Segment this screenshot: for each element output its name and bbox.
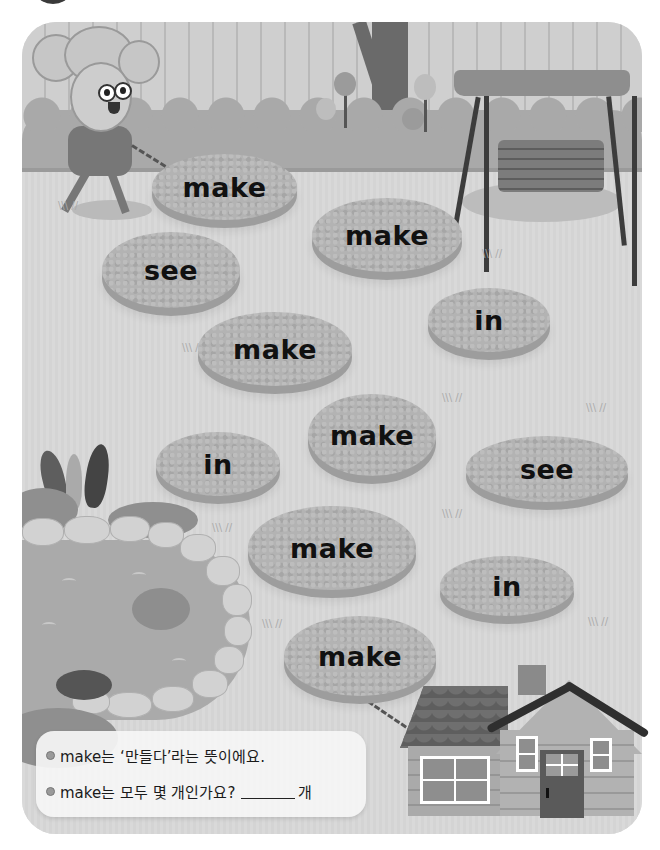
stepping-stone: in xyxy=(428,288,550,352)
grass-tuft: \\\ // xyxy=(482,248,502,259)
kid-eye xyxy=(114,82,132,100)
stepping-stone: in xyxy=(156,432,280,496)
stepping-stone: make xyxy=(152,154,297,220)
kid-body xyxy=(68,126,132,176)
lily-pad-flower xyxy=(56,670,112,700)
page-corner-mark xyxy=(38,0,68,4)
kid-mouth xyxy=(108,102,120,114)
house-window xyxy=(516,736,538,772)
swing-leg xyxy=(632,96,637,286)
grass-tuft: \\\ // xyxy=(588,616,608,627)
question-text: make는 모두 몇 개인가요? xyxy=(60,781,235,802)
kid-shadow xyxy=(72,200,152,220)
pond-rim-stone xyxy=(214,646,244,674)
stone-word: make xyxy=(330,420,414,451)
bullet-dot-icon xyxy=(46,751,55,760)
bullet-dot-icon xyxy=(46,787,55,796)
stone-word: see xyxy=(144,255,198,286)
grass-tuft: \\\ // xyxy=(212,522,232,533)
stepping-stone: make xyxy=(248,506,416,590)
grass-tuft: \\\ // xyxy=(442,508,462,519)
door-handle xyxy=(546,788,549,798)
water-wave xyxy=(172,658,186,664)
pond-rim-stone xyxy=(206,556,240,586)
stepping-stone: make xyxy=(308,394,436,476)
instruction-line-question: make는 모두 몇 개인가요? 개 xyxy=(46,781,312,802)
grass-tuft: \\\ // xyxy=(58,200,78,211)
grass-tuft: \\\ // xyxy=(442,392,462,403)
door-window xyxy=(546,754,578,776)
water-wave xyxy=(62,578,76,584)
flower-stem xyxy=(344,92,347,128)
stepping-stone: make xyxy=(312,198,462,272)
stone-word: make xyxy=(233,334,317,365)
swing-seat xyxy=(498,140,604,192)
swing-canopy xyxy=(454,70,630,96)
water-wave xyxy=(132,572,146,578)
instruction-line-meaning: make는 ‘만들다’라는 뜻이에요. xyxy=(46,745,265,766)
pond-rim-stone xyxy=(180,534,216,562)
stone-word: in xyxy=(203,449,232,480)
stepping-stone: make xyxy=(284,616,436,696)
pond-rim-stone xyxy=(22,518,64,546)
swing-leg xyxy=(484,96,489,272)
lily-pad xyxy=(132,588,190,630)
flower-icon xyxy=(402,108,424,130)
grass-tuft: \\\ // xyxy=(262,618,282,629)
stone-word: in xyxy=(474,305,503,336)
stone-word: make xyxy=(290,533,374,564)
pond-rim-stone xyxy=(106,692,152,718)
house-window xyxy=(420,756,490,804)
flower-icon xyxy=(316,98,336,120)
stone-word: make xyxy=(183,172,267,203)
instruction-text: make는 ‘만들다’라는 뜻이에요. xyxy=(60,745,265,766)
pond-rim-stone xyxy=(222,584,252,616)
flower-stem xyxy=(424,96,427,132)
pond-rim-stone xyxy=(192,670,228,698)
stone-word: make xyxy=(345,220,429,251)
pond-rim-stone xyxy=(224,616,252,646)
flower-icon xyxy=(414,74,436,100)
pond-rim-stone xyxy=(110,516,150,542)
stone-word: in xyxy=(492,571,521,602)
instruction-box: make는 ‘만들다’라는 뜻이에요. make는 모두 몇 개인가요? 개 xyxy=(36,731,366,817)
stepping-stone: see xyxy=(466,436,628,502)
stone-word: make xyxy=(318,641,402,672)
pond-rim-stone xyxy=(152,686,194,712)
stone-word: see xyxy=(520,454,574,485)
stepping-stone: make xyxy=(198,312,352,386)
stepping-stone: in xyxy=(440,556,574,616)
answer-blank[interactable] xyxy=(241,784,295,799)
grass-tuft: \\\ // xyxy=(586,402,606,413)
flower-icon xyxy=(334,72,356,96)
stepping-stone: see xyxy=(102,232,240,308)
water-wave xyxy=(42,622,56,628)
pond-rim-stone xyxy=(148,522,184,548)
unit-text: 개 xyxy=(298,781,312,802)
pond-rim-stone xyxy=(64,516,110,544)
house-chimney xyxy=(518,665,546,695)
house-window xyxy=(590,738,612,772)
